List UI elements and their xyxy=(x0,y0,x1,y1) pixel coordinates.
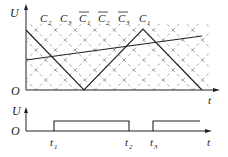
svg-text:3: 3 xyxy=(67,19,72,27)
svg-text:1: 1 xyxy=(54,143,58,151)
top-x-arrow-icon xyxy=(213,88,220,92)
svg-text:2: 2 xyxy=(106,19,110,27)
bottom-origin-label: O xyxy=(11,124,20,138)
svg-text:2: 2 xyxy=(129,143,133,151)
top-y-axis-label: U xyxy=(10,6,20,20)
top-plot: U O t C 2 C 3 C 1 C 2 xyxy=(10,4,220,106)
bottom-y-axis-label: U xyxy=(12,104,22,118)
svg-text:C: C xyxy=(98,12,106,24)
diagram-figure: U O t C 2 C 3 C 1 C 2 xyxy=(0,0,228,157)
bottom-x-arrow-icon xyxy=(205,129,212,133)
top-x-axis-label: t xyxy=(208,94,212,106)
pulse-waveform-1 xyxy=(54,121,129,131)
svg-text:3: 3 xyxy=(125,19,130,27)
bottom-x-axis-label: t xyxy=(207,136,211,148)
hatch-region xyxy=(27,24,210,90)
svg-text:C: C xyxy=(79,12,87,24)
top-origin-label: O xyxy=(11,84,20,98)
bottom-plot: U O t 1 t 2 t 3 t xyxy=(11,104,212,151)
svg-text:C: C xyxy=(139,12,147,24)
svg-text:C: C xyxy=(60,12,68,24)
svg-text:C: C xyxy=(118,12,126,24)
time-mark-t1: t 1 xyxy=(50,136,58,151)
svg-text:C: C xyxy=(40,12,48,24)
svg-text:1: 1 xyxy=(87,19,91,27)
time-mark-t2: t 2 xyxy=(125,136,133,151)
svg-text:1: 1 xyxy=(147,19,151,27)
bottom-y-arrow-icon xyxy=(24,107,28,113)
time-mark-t3: t 3 xyxy=(150,136,158,151)
svg-text:2: 2 xyxy=(48,19,52,27)
pulse-waveform-2 xyxy=(153,121,200,131)
top-y-arrow-icon xyxy=(24,4,28,10)
svg-text:3: 3 xyxy=(153,143,158,151)
